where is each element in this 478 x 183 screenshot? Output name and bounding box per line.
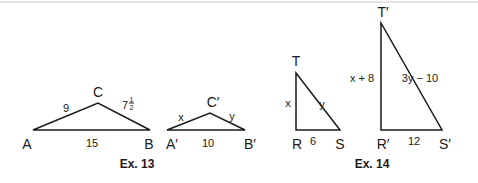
side-a-prime-c-prime-label: x xyxy=(178,112,184,123)
triangles-figure xyxy=(0,0,478,183)
ex14-caption: Ex. 14 xyxy=(355,158,390,170)
vertex-s-label: S xyxy=(335,137,344,151)
side-a-prime-b-prime-label: 10 xyxy=(202,138,214,149)
side-ts-label: y xyxy=(319,99,325,110)
side-ab-label: 15 xyxy=(86,138,98,149)
vertex-t-prime-label: T′ xyxy=(377,5,388,19)
vertex-r-label: R xyxy=(292,137,302,151)
vertex-b-prime-label: B′ xyxy=(244,137,256,151)
vertex-r-prime-label: R′ xyxy=(377,137,390,151)
vertex-c-label: C xyxy=(93,85,103,99)
fraction-denominator: 2 xyxy=(130,104,134,111)
vertex-t-label: T xyxy=(292,54,301,68)
vertex-b-label: B xyxy=(144,137,153,151)
triangle-trs xyxy=(296,73,340,130)
side-rs-label: 6 xyxy=(310,136,316,147)
fraction-numerator: 1 xyxy=(130,96,134,103)
side-cb-fraction: 12 xyxy=(129,96,134,111)
side-tr-label: x xyxy=(285,98,291,109)
vertex-a-label: A xyxy=(22,137,31,151)
side-cb-label: 712 xyxy=(122,99,134,114)
ex13-caption: Ex. 13 xyxy=(120,158,155,170)
side-r-prime-s-prime-label: 12 xyxy=(408,136,420,147)
vertex-c-prime-label: C′ xyxy=(207,95,220,109)
side-t-prime-s-prime-label: 3y − 10 xyxy=(402,73,438,84)
side-t-prime-r-prime-label: x + 8 xyxy=(350,73,374,84)
side-ac-label: 9 xyxy=(63,103,69,114)
side-c-prime-b-prime-label: y xyxy=(229,111,235,122)
diagram-canvas: A B C 9 712 15 A′ B′ C′ x y 10 Ex. 13 T … xyxy=(0,0,478,183)
vertex-s-prime-label: S′ xyxy=(439,137,451,151)
side-cb-whole: 7 xyxy=(122,99,128,111)
vertex-a-prime-label: A′ xyxy=(166,137,178,151)
